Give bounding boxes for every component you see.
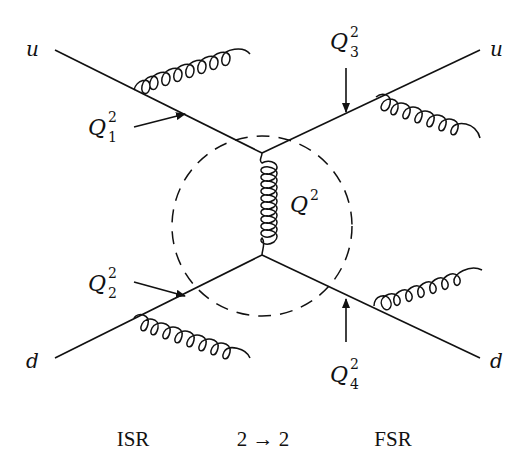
exchange-gluon bbox=[260, 153, 277, 255]
svg-text:Q: Q bbox=[88, 271, 106, 296]
fsr-gluon-top bbox=[376, 94, 480, 138]
svg-text:2: 2 bbox=[108, 265, 117, 281]
svg-text:Q: Q bbox=[88, 115, 106, 140]
incoming-d-line bbox=[55, 255, 262, 358]
label-q2: Q 2 2 bbox=[88, 265, 117, 301]
q1-arrow bbox=[134, 114, 185, 127]
label-out-u: u bbox=[490, 37, 503, 61]
svg-text:1: 1 bbox=[108, 129, 117, 145]
svg-text:2: 2 bbox=[350, 356, 359, 372]
q2-arrow bbox=[134, 282, 185, 296]
svg-text:2: 2 bbox=[108, 285, 117, 301]
svg-text:3: 3 bbox=[350, 44, 359, 60]
svg-text:4: 4 bbox=[350, 376, 359, 392]
label-q-hard: Q 2 bbox=[290, 187, 319, 217]
svg-text:Q: Q bbox=[290, 192, 308, 217]
svg-text:2: 2 bbox=[350, 24, 359, 40]
label-q1: Q 2 1 bbox=[88, 109, 117, 145]
fsr-gluon-bottom bbox=[374, 268, 482, 310]
outgoing-d-line bbox=[262, 255, 480, 358]
isr-gluon-bottom bbox=[134, 315, 250, 359]
label-q3: Q 2 3 bbox=[330, 24, 359, 60]
feynman-diagram: u u d d Q 2 1 Q 2 2 Q 2 3 Q 2 4 Q 2 ISR … bbox=[0, 0, 528, 466]
incoming-u-line bbox=[55, 50, 262, 153]
label-out-d: d bbox=[490, 349, 503, 373]
caption-isr: ISR bbox=[117, 427, 150, 451]
svg-text:2: 2 bbox=[310, 187, 319, 203]
isr-gluon-top bbox=[134, 49, 250, 93]
svg-text:Q: Q bbox=[330, 29, 348, 54]
outgoing-u-line bbox=[262, 50, 480, 153]
label-in-d: d bbox=[26, 349, 39, 373]
caption-fsr: FSR bbox=[374, 427, 411, 451]
label-q4: Q 2 4 bbox=[330, 356, 359, 392]
svg-text:2: 2 bbox=[108, 109, 117, 125]
svg-text:Q: Q bbox=[330, 362, 348, 387]
caption-hard: 2 → 2 bbox=[237, 427, 290, 451]
label-in-u: u bbox=[26, 37, 39, 61]
